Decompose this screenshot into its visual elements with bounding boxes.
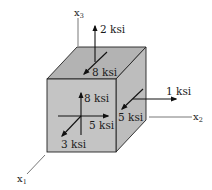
- top-normal-label: 2 ksi: [100, 23, 126, 35]
- front-normal-label: 3 ksi: [61, 138, 87, 150]
- right-normal-label: 1 ksi: [166, 85, 192, 97]
- x2-axis-label: x2: [193, 111, 203, 124]
- front-horizontal-label: 5 ksi: [89, 119, 115, 131]
- x1-axis: [27, 155, 45, 174]
- front-vertical-label: 8 ksi: [84, 92, 110, 104]
- stress-cube-diagram: 2 ksi 8 ksi 8 ksi 5 ksi 3 ksi 1 ksi 5 ks…: [0, 0, 212, 190]
- right-shear-label: 5 ksi: [118, 111, 144, 123]
- x1-axis-label: x1: [17, 173, 27, 186]
- top-shear-label: 8 ksi: [92, 66, 118, 78]
- x3-axis-label: x3: [74, 7, 84, 20]
